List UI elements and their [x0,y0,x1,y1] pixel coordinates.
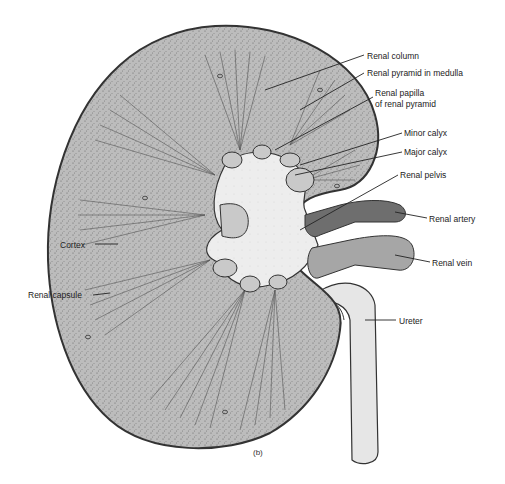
renal-vein [308,236,414,278]
label-renal-papilla-2: of renal pyramid [375,99,436,109]
label-renal-vein: Renal vein [432,258,472,268]
label-major-calyx: Major calyx [404,147,447,157]
label-renal-papilla-1: Renal papilla [375,88,424,98]
label-renal-pelvis: Renal pelvis [400,170,446,180]
label-renal-artery: Renal artery [429,214,475,224]
label-renal-pyramid: Renal pyramid in medulla [367,68,463,78]
label-cortex: Cortex [60,240,85,250]
label-ureter: Ureter [399,316,423,326]
label-minor-calyx: Minor calyx [404,128,447,138]
label-renal-column: Renal column [367,51,419,61]
label-renal-capsule: Renal capsule [28,290,82,300]
figure-caption: (b) [253,448,263,457]
